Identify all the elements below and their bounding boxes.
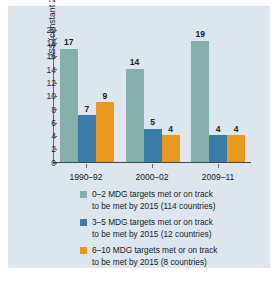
x-axis-category: 2000–02 [119, 164, 185, 182]
bar-value-label: 14 [130, 58, 139, 67]
bar[interactable] [60, 49, 78, 162]
x-axis-tick-mark [86, 164, 87, 168]
x-axis-tick-mark [218, 164, 219, 168]
bar-group: 1779 [54, 30, 120, 162]
bar-column: 4 [227, 30, 245, 162]
bar[interactable] [78, 115, 96, 162]
bar-column: 19 [191, 30, 209, 162]
bar-groups: 177914541944 [54, 30, 251, 162]
bar-group: 1454 [120, 30, 186, 162]
legend-label: 6–10 MDG targets met or on trackto be me… [92, 245, 217, 268]
figure: US$ (constant 2010) 20181614121086420 17… [0, 0, 278, 286]
bar-value-label: 4 [216, 125, 221, 134]
bar[interactable] [227, 135, 245, 162]
bar-value-label: 19 [195, 30, 204, 39]
x-axis-category-label: 1990–92 [53, 172, 119, 182]
legend-item[interactable]: 6–10 MDG targets met or on trackto be me… [80, 245, 260, 268]
bar[interactable] [209, 135, 227, 162]
bar-value-label: 7 [84, 105, 89, 114]
bar-column: 5 [144, 30, 162, 162]
chart-legend: 0–2 MDG targets met or on trackto be met… [80, 189, 260, 273]
bar-column: 14 [126, 30, 144, 162]
x-axis-line [53, 162, 251, 163]
bar-value-label: 5 [150, 118, 155, 127]
legend-item[interactable]: 3–5 MDG targets met or on trackto be met… [80, 217, 260, 240]
legend-label-line1: 0–2 MDG targets met or on track [92, 189, 215, 201]
x-axis-category-labels: 1990–922000–022009–11 [53, 164, 251, 182]
x-axis-category-label: 2000–02 [119, 172, 185, 182]
legend-label: 0–2 MDG targets met or on trackto be met… [92, 189, 215, 212]
bar-value-label: 4 [234, 125, 239, 134]
legend-item[interactable]: 0–2 MDG targets met or on trackto be met… [80, 189, 260, 212]
legend-swatch [80, 219, 87, 226]
legend-label-line1: 3–5 MDG targets met or on track [92, 217, 213, 229]
legend-label-line2: to be met by 2015 (12 countries) [92, 229, 213, 241]
legend-swatch [80, 191, 87, 198]
bar-column: 17 [60, 30, 78, 162]
x-axis-tick-mark [152, 164, 153, 168]
bar-column: 4 [209, 30, 227, 162]
x-axis-category: 1990–92 [53, 164, 119, 182]
bar[interactable] [144, 129, 162, 162]
bar-value-label: 17 [64, 38, 73, 47]
bar-value-label: 9 [102, 92, 107, 101]
legend-label-line1: 6–10 MDG targets met or on track [92, 245, 217, 257]
bar[interactable] [191, 41, 209, 163]
x-axis-category-label: 2009–11 [185, 172, 251, 182]
chart-panel: US$ (constant 2010) 20181614121086420 17… [8, 6, 270, 268]
legend-label: 3–5 MDG targets met or on trackto be met… [92, 217, 213, 240]
plot-area: US$ (constant 2010) 20181614121086420 17… [53, 30, 251, 163]
bar[interactable] [126, 69, 144, 162]
bar-group: 1944 [185, 30, 251, 162]
bar-column: 7 [78, 30, 96, 162]
x-axis-category: 2009–11 [185, 164, 251, 182]
bar-value-label: 4 [168, 125, 173, 134]
bar[interactable] [96, 102, 114, 162]
legend-label-line2: to be met by 2015 (114 countries) [92, 201, 215, 213]
legend-label-line2: to be met by 2015 (8 countries) [92, 257, 217, 269]
bar-column: 4 [162, 30, 180, 162]
bar[interactable] [162, 135, 180, 162]
legend-swatch [80, 247, 87, 254]
bar-column: 9 [96, 30, 114, 162]
